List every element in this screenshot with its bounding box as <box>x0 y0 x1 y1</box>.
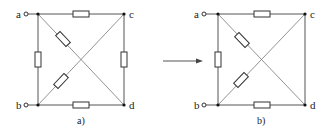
figure-a: a c b d a) <box>16 8 135 127</box>
node-a <box>36 12 39 15</box>
resistor-b-d <box>254 102 270 108</box>
node-d <box>122 103 125 106</box>
terminal-a <box>24 12 28 16</box>
label-a: a <box>16 8 21 20</box>
node-c <box>303 12 306 15</box>
resistor-a-b <box>35 52 41 67</box>
label-d: d <box>310 99 316 111</box>
resistor-a-d <box>235 33 250 48</box>
node-a <box>216 12 219 15</box>
node-c <box>122 12 125 15</box>
label-b: b <box>194 99 200 111</box>
resistor-b-d <box>73 102 89 108</box>
caption-b: b) <box>257 115 265 127</box>
terminal-b <box>202 103 206 107</box>
terminal-b <box>24 103 28 107</box>
resistor-b-c <box>54 73 69 88</box>
resistor-a-d <box>56 31 71 46</box>
figure-b: a c b d b) <box>194 8 316 127</box>
node-d <box>303 103 306 106</box>
node-b <box>216 103 219 106</box>
label-d: d <box>129 99 135 111</box>
circuit-diagram: a c b d a) a <box>0 0 327 133</box>
resistor-a-c <box>254 11 270 17</box>
resistor-b-c <box>234 73 249 88</box>
right-arrow-icon <box>163 59 203 64</box>
resistor-a-b <box>215 52 221 67</box>
node-b <box>36 103 39 106</box>
terminal-a <box>202 12 206 16</box>
label-b: b <box>16 99 22 111</box>
label-c: c <box>310 8 315 20</box>
resistor-a-c <box>73 11 89 17</box>
label-c: c <box>129 8 134 20</box>
label-a: a <box>194 8 199 20</box>
resistor-c-d <box>121 52 127 67</box>
caption-a: a) <box>77 115 85 127</box>
